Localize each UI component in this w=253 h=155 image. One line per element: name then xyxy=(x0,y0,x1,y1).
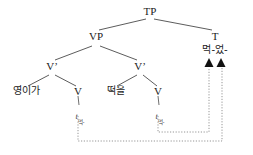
movement-path-outer xyxy=(78,68,222,141)
branch-vleft-trace xyxy=(78,96,79,105)
branch-vright-trace xyxy=(158,96,159,105)
node-v-left: V xyxy=(74,86,82,97)
node-tp: TP xyxy=(144,6,157,17)
arrowhead-left-icon xyxy=(205,58,214,67)
trace-left-subscript: 먹- xyxy=(78,119,85,125)
branch-vp-vbar-left xyxy=(55,46,92,60)
node-object: 떡을 xyxy=(107,86,125,96)
trace-right-subscript: 먹- xyxy=(158,119,165,125)
branch-tp-vp xyxy=(99,19,146,30)
node-vbar-right: V’ xyxy=(134,61,146,72)
trace-right: t먹- xyxy=(155,106,164,125)
node-subject: 영이가 xyxy=(13,86,40,96)
node-t: T xyxy=(212,31,219,42)
trace-left: t먹- xyxy=(75,106,84,125)
tree-branch-layer xyxy=(0,0,253,155)
branch-vp-vbar-right xyxy=(100,46,137,60)
branch-vbarleft-v xyxy=(55,75,76,86)
syntax-tree-diagram: TP VP T 먹-었- V’ V’ 영이가 V 떡을 V t먹- t먹- xyxy=(0,0,253,155)
node-v-right: V xyxy=(154,86,162,97)
node-vp: VP xyxy=(89,31,103,42)
node-vbar-left: V’ xyxy=(46,61,58,72)
arrowhead-right-icon xyxy=(217,58,226,67)
branch-tp-t xyxy=(154,19,212,30)
node-t-head: 먹-었- xyxy=(202,45,227,55)
movement-path-inner xyxy=(158,68,209,132)
